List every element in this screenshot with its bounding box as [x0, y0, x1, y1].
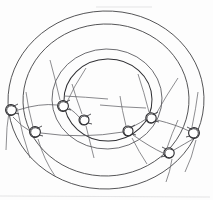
knot-node-4[interactable] — [30, 126, 43, 137]
spoke-b — [17, 108, 30, 158]
spoke-g — [72, 84, 82, 114]
connector-node5-node7 — [133, 135, 163, 153]
spoke-c — [50, 60, 60, 100]
radius-line-secondary — [100, 105, 146, 108]
radius-line — [64, 96, 108, 99]
spoke-i — [120, 96, 126, 126]
diagram-canvas — [0, 0, 213, 200]
spoke-j — [132, 138, 147, 164]
knot-node-3[interactable] — [79, 114, 92, 125]
connector-node4-node5 — [41, 132, 123, 136]
outer-ring — [5, 8, 207, 193]
knot-node-8[interactable] — [186, 127, 199, 138]
knot-node-6[interactable] — [146, 112, 159, 123]
spoke-d — [66, 68, 86, 104]
knot-node-5[interactable] — [123, 125, 136, 136]
paper-smudge-bottom — [0, 196, 210, 197]
spoke-e — [26, 92, 33, 127]
concentric-ring-diagram — [0, 0, 213, 200]
connector-node2-node3 — [69, 108, 80, 118]
spoke-k — [138, 74, 149, 112]
spoke-o — [192, 92, 198, 127]
spoke-f — [38, 139, 55, 176]
knot-node-2[interactable] — [58, 100, 71, 111]
spoke-n — [166, 159, 172, 182]
spoke-h — [86, 126, 94, 158]
